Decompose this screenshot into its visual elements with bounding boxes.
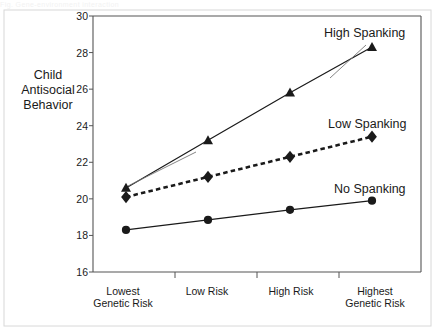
data-point-circle [204,216,212,224]
data-point-circle [122,226,130,234]
chart-figure: Fig. Gene-environment interaction Child … [0,0,435,330]
data-point-triangle [121,183,131,192]
data-point-diamond [285,151,295,163]
series-low-spanking [121,131,377,204]
annotation-leader-lines [128,45,366,186]
data-point-triangle [203,135,213,144]
chart-canvas [0,0,435,330]
y-tick-marks [89,16,93,272]
data-point-circle [368,197,376,205]
figure-border [4,10,431,326]
data-point-triangle [285,88,295,97]
data-point-diamond [203,171,213,183]
data-point-triangle [367,42,377,51]
data-point-diamond [121,191,131,203]
series-high-spanking [121,42,377,192]
series-line [126,201,372,230]
series-no-spanking [122,197,376,234]
x-tick-marks [175,272,339,278]
data-point-circle [286,206,294,214]
plot-frame [4,10,431,326]
data-point-diamond [367,131,377,143]
